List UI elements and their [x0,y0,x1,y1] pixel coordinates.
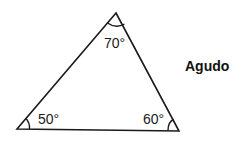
triangle-type-label: Agudo [185,58,229,74]
top-angle-label: 70° [104,35,125,51]
bottom-left-angle-label: 50° [38,111,59,127]
acute-triangle-diagram: 70° 50° 60° Agudo [0,0,238,149]
bottom-left-angle-arc-icon [26,119,30,130]
bottom-right-angle-label: 60° [143,111,164,127]
bottom-right-angle-arc-icon [168,120,174,131]
